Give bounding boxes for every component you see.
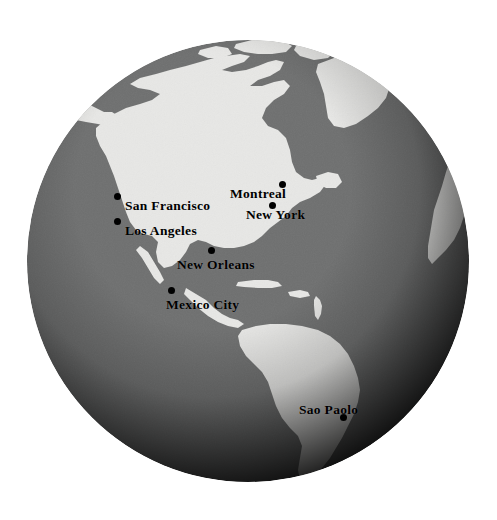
city-label: New Orleans [177, 257, 255, 273]
city-dot[interactable] [168, 287, 175, 294]
city-label: Sao Paolo [299, 402, 358, 418]
city-dot[interactable] [208, 247, 215, 254]
city-dot[interactable] [114, 218, 121, 225]
city-label: New York [246, 207, 305, 223]
city-label: Los Angeles [125, 223, 197, 239]
globe-screenshot: San Francisco Los Angeles Montreal New Y… [0, 0, 497, 520]
city-label: San Francisco [125, 198, 210, 214]
city-label: Montreal [230, 186, 286, 202]
city-dot[interactable] [114, 193, 121, 200]
city-label: Mexico City [166, 297, 239, 313]
